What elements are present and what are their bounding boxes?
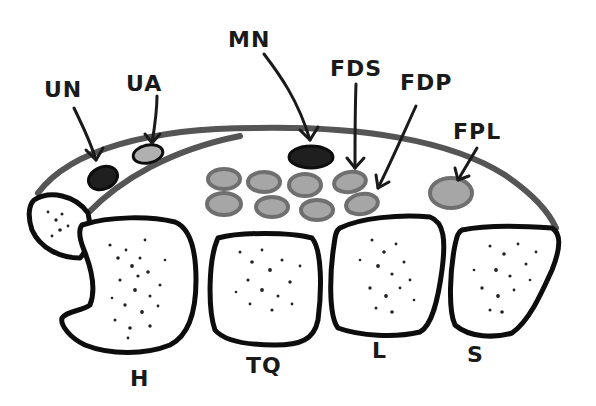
label-mn: MN [228,27,270,52]
label-un: UN [44,77,82,102]
label-fds: FDS [330,56,382,81]
label-tq: TQ [246,353,282,378]
label-s: S [467,342,484,367]
median-nerve-shape [289,146,333,168]
flexor-tendons [207,169,472,220]
label-fpl: FPL [453,119,501,144]
bone-h [62,218,196,353]
bone-s [450,226,558,336]
label-ua: UA [126,71,162,96]
bone-l [331,216,444,335]
label-h: H [130,366,149,391]
bone-tq [210,234,320,346]
carpal-tunnel-diagram: UN UA MN FDS FDP FPL H TQ L S [0,0,596,406]
label-l: L [372,338,387,363]
label-fdp: FDP [400,70,452,95]
